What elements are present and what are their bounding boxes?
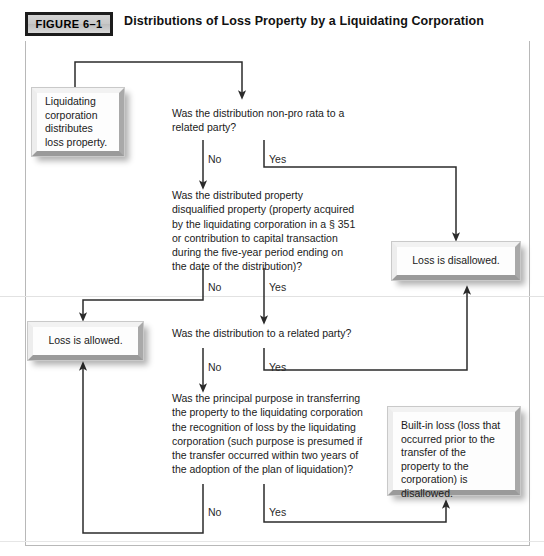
branch-label-q3-no: No xyxy=(208,361,221,373)
outcome-built-in-loss-label: Built-in loss (loss that occurred prior … xyxy=(401,419,507,500)
question-disqualified-property: Was the distributed property disqualifie… xyxy=(172,188,357,274)
branch-label-q3-yes: Yes xyxy=(269,361,286,373)
figure-number-badge: FIGURE 6–1 xyxy=(25,12,113,36)
outcome-loss-disallowed: Loss is disallowed. xyxy=(392,242,520,280)
figure-header: FIGURE 6–1 Distributions of Loss Propert… xyxy=(0,0,544,44)
start-terminator-label: Liquidating corporation distributes loss… xyxy=(45,95,111,149)
figure-title: Distributions of Loss Property by a Liqu… xyxy=(124,14,484,28)
start-terminator: Liquidating corporation distributes loss… xyxy=(32,88,124,156)
branch-label-q2-no: No xyxy=(208,281,221,293)
question-related-party: Was the distribution to a related party? xyxy=(172,326,372,340)
figure-root: FIGURE 6–1 Distributions of Loss Propert… xyxy=(0,0,544,556)
page-fold-line-lower xyxy=(0,541,544,542)
outcome-loss-allowed: Loss is allowed. xyxy=(28,322,143,360)
outcome-built-in-loss-disallowed: Built-in loss (loss that occurred prior … xyxy=(388,407,520,495)
branch-label-q1-yes: Yes xyxy=(269,153,286,165)
branch-label-q2-yes: Yes xyxy=(269,281,286,293)
page-fold-line-upper xyxy=(0,296,544,297)
branch-label-q4-no: No xyxy=(208,506,221,518)
outcome-loss-allowed-label: Loss is allowed. xyxy=(48,334,122,348)
question-non-pro-rata: Was the distribution non-pro rata to a r… xyxy=(172,106,362,135)
question-principal-purpose: Was the principal purpose in transferrin… xyxy=(172,391,372,477)
branch-label-q4-yes: Yes xyxy=(269,506,286,518)
branch-label-q1-no: No xyxy=(208,153,221,165)
outcome-loss-disallowed-label: Loss is disallowed. xyxy=(412,254,500,268)
